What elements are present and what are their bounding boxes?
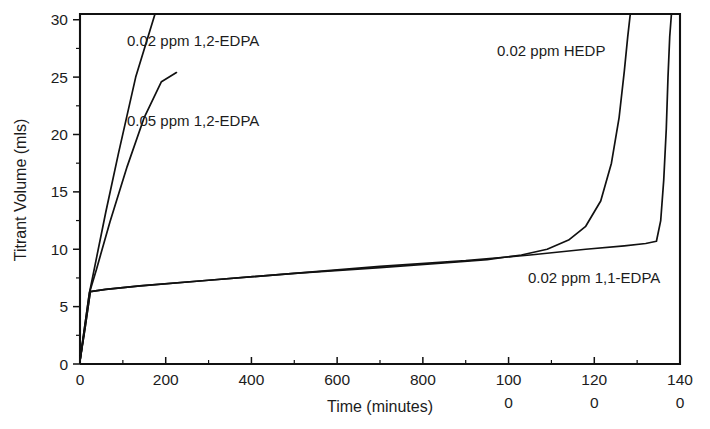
x-tick-label: 120 (581, 371, 607, 388)
y-axis-title: Titrant Volume (mls) (12, 119, 29, 262)
series-annotation: 0.02 ppm HEDP (497, 42, 605, 59)
x-tick-label: 600 (324, 371, 350, 388)
y-tick-label: 0 (59, 356, 68, 373)
y-tick-label: 25 (51, 69, 68, 86)
x-tick-label: 140 (667, 371, 693, 388)
chart-figure: 0200400600800100012001400 051015202530 0… (0, 0, 710, 429)
y-tick-label: 20 (51, 126, 69, 143)
x-tick-label: 0 (76, 371, 85, 388)
y-tick-label: 10 (51, 241, 69, 258)
x-tick-label-overflow: 0 (504, 394, 513, 411)
x-tick-label-overflow: 0 (590, 394, 599, 411)
series-annotation: 0.02 ppm 1,2-EDPA (127, 32, 259, 49)
y-tick-label: 5 (59, 298, 68, 315)
series-annotation: 0.02 ppm 1,1-EDPA (528, 269, 660, 286)
series-annotation: 0.05 ppm 1,2-EDPA (127, 112, 259, 129)
x-tick-label: 800 (410, 371, 436, 388)
x-axis-title: Time (minutes) (327, 398, 433, 415)
titration-curve-chart: 0200400600800100012001400 051015202530 0… (0, 0, 710, 429)
x-tick-label: 400 (238, 371, 264, 388)
y-tick-label: 30 (51, 11, 69, 28)
x-tick-label-overflow: 0 (676, 394, 685, 411)
x-tick-label: 100 (496, 371, 522, 388)
y-tick-label: 15 (51, 183, 68, 200)
x-tick-label: 200 (153, 371, 179, 388)
